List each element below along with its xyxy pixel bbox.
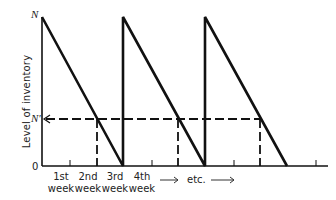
- x-ticks: [70, 160, 316, 166]
- reorder-point-dashed-verticals: [97, 119, 260, 166]
- x-label-week-4: 4th week: [122, 171, 162, 195]
- inventory-sawtooth-chart: [0, 0, 336, 200]
- etc-label: etc.: [187, 175, 206, 185]
- y-axis-title: Level of inventory: [21, 47, 32, 157]
- inventory-sawtooth-line: [42, 17, 287, 166]
- y-label-n-prime: N': [31, 113, 41, 124]
- y-label-n: N: [31, 9, 38, 20]
- y-label-zero: 0: [32, 162, 38, 172]
